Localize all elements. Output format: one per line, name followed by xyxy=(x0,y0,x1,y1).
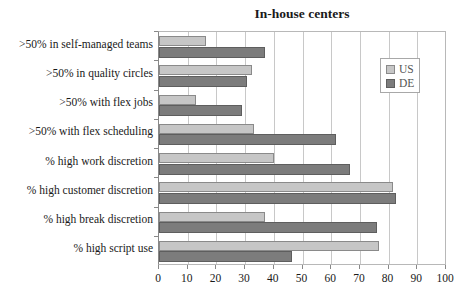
bar-us xyxy=(159,182,393,192)
x-tick xyxy=(273,265,274,269)
x-tick-label: 100 xyxy=(430,272,460,284)
x-tick xyxy=(388,265,389,269)
y-tick-label: >50% in self-managed teams xyxy=(19,38,153,50)
y-tick-label: % high script use xyxy=(73,242,153,254)
x-tick-label: 40 xyxy=(258,272,288,284)
bar-de xyxy=(159,105,242,116)
y-tick-label: % high work discretion xyxy=(45,155,153,167)
x-tick xyxy=(187,265,188,269)
legend-item-de: DE xyxy=(386,77,414,89)
x-tick xyxy=(330,265,331,269)
legend-swatch-us xyxy=(386,65,395,74)
legend-item-us: US xyxy=(386,63,414,75)
bar-de xyxy=(159,134,336,145)
bar-de xyxy=(159,193,396,204)
bar-us xyxy=(159,212,265,222)
y-tick xyxy=(154,236,158,237)
x-tick xyxy=(215,265,216,269)
bar-us xyxy=(159,65,252,75)
bar-de xyxy=(159,164,350,175)
x-tick xyxy=(302,265,303,269)
bar-us xyxy=(159,36,206,46)
x-tick-label: 30 xyxy=(229,272,259,284)
x-tick xyxy=(158,265,159,269)
x-tick-label: 60 xyxy=(315,272,345,284)
y-tick xyxy=(154,90,158,91)
x-tick-label: 20 xyxy=(200,272,230,284)
bar-us xyxy=(159,241,379,251)
x-tick xyxy=(244,265,245,269)
x-tick xyxy=(445,265,446,269)
legend-label-us: US xyxy=(399,63,414,75)
y-tick-label: >50% in quality circles xyxy=(46,67,153,79)
legend-label-de: DE xyxy=(399,77,414,89)
y-tick xyxy=(154,60,158,61)
bar-de xyxy=(159,251,292,262)
bar-us xyxy=(159,153,274,163)
bar-us xyxy=(159,124,254,134)
y-tick-label: % high customer discretion xyxy=(27,184,153,196)
legend: US DE xyxy=(380,58,420,93)
y-tick xyxy=(154,31,158,32)
bar-de xyxy=(159,76,247,87)
x-tick xyxy=(416,265,417,269)
y-tick xyxy=(154,207,158,208)
x-tick-label: 10 xyxy=(172,272,202,284)
chart-title: In-house centers xyxy=(158,6,446,22)
x-tick-label: 50 xyxy=(287,272,317,284)
y-tick xyxy=(154,119,158,120)
y-tick-label: % high break discretion xyxy=(43,213,153,225)
x-tick xyxy=(359,265,360,269)
x-tick-label: 0 xyxy=(143,272,173,284)
y-tick-label: >50% with flex jobs xyxy=(59,96,153,108)
legend-swatch-de xyxy=(386,79,395,88)
y-tick xyxy=(154,177,158,178)
y-tick xyxy=(154,148,158,149)
bar-de xyxy=(159,47,265,58)
x-tick-label: 70 xyxy=(344,272,374,284)
bar-us xyxy=(159,95,196,105)
bar-de xyxy=(159,222,377,233)
x-tick-label: 90 xyxy=(401,272,431,284)
x-tick-label: 80 xyxy=(373,272,403,284)
y-tick-label: >50% with flex scheduling xyxy=(29,125,153,137)
